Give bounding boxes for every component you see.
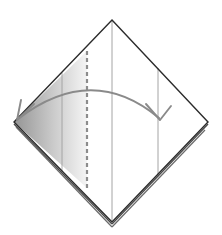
shaded-left-flap [14,51,87,188]
origami-diagram-figure: Square sheet rotated 45 degrees (diamond… [0,0,222,235]
origami-diagram-canvas [0,0,222,235]
